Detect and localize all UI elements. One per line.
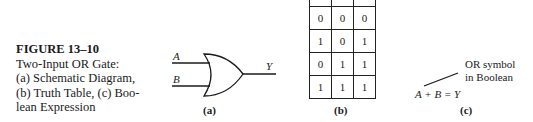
sublabel-c: (c) [460,104,472,116]
table-cell: 0 [354,7,376,30]
table-cell: 0 [310,53,332,76]
table-row: 0 1 1 [310,53,376,76]
sublabel-b: (b) [334,104,347,116]
table-cell: 1 [354,30,376,53]
table-cell: 0 [332,7,354,30]
note-line: in Boolean [465,71,515,84]
table-cell: 0 [310,7,332,30]
table-row: 1 0 1 [310,30,376,53]
table-row: 1 1 1 [310,76,376,99]
sublabel-a: (a) [203,104,216,116]
input-b-label: B [173,73,180,85]
table-row: 0 0 0 [310,7,376,30]
table-cell: 0 [332,30,354,53]
output-y-label: Y [266,60,272,72]
table-cell: 1 [354,76,376,99]
or-gate-icon [204,54,243,96]
table-cell: 1 [332,53,354,76]
boolean-expression: A + B = Y [415,88,460,100]
truth-table: 0 0 0 1 0 1 0 1 1 1 1 1 [309,0,376,99]
table-cell: 1 [332,76,354,99]
or-symbol-note: OR symbol in Boolean [465,58,515,83]
table-cell: 1 [310,30,332,53]
table-cell: 1 [354,53,376,76]
pointer-line [424,73,458,86]
input-a-label: A [173,50,180,62]
note-line: OR symbol [465,58,515,71]
table-cell: 1 [310,76,332,99]
